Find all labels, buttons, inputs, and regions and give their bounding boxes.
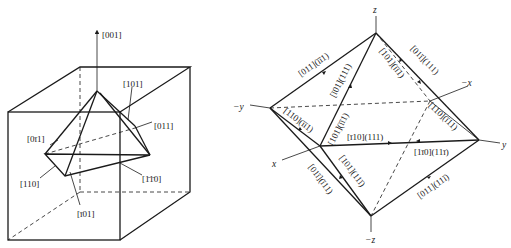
label-110-left: [110] [20, 179, 39, 189]
edge-arrow [322, 71, 326, 75]
label-110-right: [1̄1̄0] [142, 174, 161, 184]
axis-neg-x [430, 86, 468, 101]
edge-label-lower-left: [01ī](ī11) [306, 162, 335, 196]
pyramid-edge [45, 91, 97, 154]
cube-right-face [120, 67, 190, 240]
pyramid-edge [100, 93, 150, 155]
edge-label-upper-left: [011](īī1) [296, 51, 330, 79]
octahedron-figure: z −z −y y x −x [011](īī1) [ī01](111) [10… [233, 5, 507, 245]
octa-edge [320, 33, 376, 146]
axis-label-x: x [271, 159, 277, 169]
pyramid-hidden-edge [45, 128, 135, 154]
leader-line-011 [135, 122, 152, 128]
diagram-canvas: [001] [101] [011] [0ī1] [110] [1̄1̄0] [ī… [0, 0, 511, 248]
octa-hidden-edge [270, 101, 430, 108]
pyramid-edge [65, 91, 97, 176]
leader-line-110-right [120, 163, 142, 175]
label-0-11: [0ī1] [27, 134, 45, 144]
edge-label-lower-mid-left: [101](11ī) [337, 153, 367, 188]
octa-edge [270, 108, 371, 216]
axis-label-neg-y: −y [233, 102, 244, 112]
edge-label-lower-right: [011](11ī) [415, 172, 450, 201]
label-001: [001] [102, 30, 122, 40]
axis-label-z: z [372, 5, 377, 15]
leader-line-101 [128, 87, 132, 120]
edge-label-lower-center-right: [1ī0](11ī) [414, 147, 449, 157]
label-minus101: [ī01] [77, 209, 95, 219]
axis-y [479, 140, 500, 143]
label-011: [011] [154, 121, 173, 131]
edge-label-center-horizontal: [ī10](111) [347, 132, 383, 142]
octa-edge [270, 33, 376, 108]
edge-label-mid-right: [110](ī11) [427, 100, 460, 132]
octa-edge [320, 140, 479, 146]
label-101: [101] [123, 79, 143, 89]
axis-neg-y [250, 105, 270, 108]
axis-label-y: y [501, 140, 507, 150]
pyramid-edge [135, 126, 150, 155]
leader-line-minus101 [70, 172, 80, 205]
leader-line-110-left [40, 166, 55, 178]
edge-label-upper-mid-right: [101](īī1) [377, 46, 406, 80]
edge-arrow [417, 80, 421, 84]
cube-hidden-edge [8, 192, 80, 240]
axis-x [282, 146, 320, 160]
octa-hidden-edge [376, 33, 430, 101]
cube-figure: [001] [101] [011] [0ī1] [110] [1̄1̄0] [ī… [8, 30, 190, 240]
edge-label-upper-mid-left: [ī01](111) [328, 62, 353, 99]
cube-top-face [8, 67, 190, 112]
axis-label-neg-z: −z [365, 235, 375, 245]
axis-label-neg-x: −x [461, 78, 472, 88]
leader-line-0-11 [50, 140, 58, 145]
pyramid-base-front [45, 154, 150, 176]
edge-arrow [388, 141, 392, 145]
